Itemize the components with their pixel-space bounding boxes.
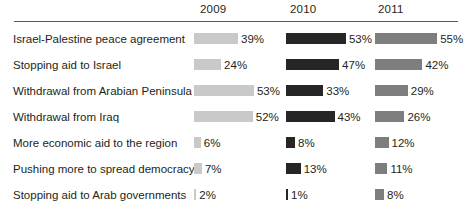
bar-value-label: 6% — [204, 130, 221, 156]
column-header-2011: 2011 — [378, 3, 404, 15]
bar-2009 — [194, 59, 221, 70]
bar-value-label: 24% — [224, 52, 247, 78]
bar-2010 — [286, 59, 339, 70]
bar-2011 — [375, 189, 384, 200]
column-header-2010: 2010 — [290, 3, 316, 15]
row-category-label: Pushing more to spread democracy — [13, 156, 195, 182]
bar-value-label: 39% — [241, 26, 264, 52]
bar-value-label: 8% — [387, 182, 404, 208]
bar-value-label: 1% — [291, 182, 308, 208]
row-category-label: More economic aid to the region — [13, 130, 177, 156]
row-category-label: Withdrawal from Iraq — [13, 104, 119, 130]
bar-2010 — [286, 189, 288, 200]
bar-2011 — [375, 59, 422, 70]
bar-2011 — [375, 137, 389, 148]
row-category-label: Stopping aid to Arab governments — [13, 182, 186, 208]
bar-value-label: 12% — [392, 130, 415, 156]
bar-value-label: 26% — [407, 104, 430, 130]
bar-2011 — [375, 111, 404, 122]
bar-2010 — [286, 163, 301, 174]
row-category-label: Withdrawal from Arabian Peninsula — [13, 78, 192, 104]
bar-2009 — [194, 137, 201, 148]
bar-value-label: 53% — [257, 78, 280, 104]
header-divider-rule — [14, 21, 458, 22]
bar-2010 — [286, 137, 295, 148]
bar-2011 — [375, 33, 437, 44]
column-header-2009: 2009 — [200, 3, 226, 15]
bar-2009 — [194, 85, 254, 96]
bar-value-label: 53% — [349, 26, 372, 52]
chart-row: More economic aid to the region6%8%12% — [0, 130, 472, 156]
bar-value-label: 55% — [440, 26, 463, 52]
bar-value-label: 52% — [256, 104, 279, 130]
chart-row: Stopping aid to Arab governments2%1%8% — [0, 182, 472, 208]
bar-2009 — [194, 189, 196, 200]
bar-2010 — [286, 85, 323, 96]
row-category-label: Stopping aid to Israel — [13, 52, 121, 78]
bar-2010 — [286, 111, 335, 122]
chart-row: Israel-Palestine peace agreement39%53%55… — [0, 26, 472, 52]
chart-row: Withdrawal from Iraq52%43%26% — [0, 104, 472, 130]
bar-2011 — [375, 85, 408, 96]
bar-value-label: 8% — [298, 130, 315, 156]
bar-2011 — [375, 163, 387, 174]
bar-value-label: 7% — [205, 156, 222, 182]
bar-2009 — [194, 111, 253, 122]
bar-2009 — [194, 33, 238, 44]
chart-row: Pushing more to spread democracy7%13%11% — [0, 156, 472, 182]
row-category-label: Israel-Palestine peace agreement — [13, 26, 185, 52]
bar-value-label: 29% — [411, 78, 434, 104]
bar-value-label: 13% — [304, 156, 327, 182]
bar-value-label: 47% — [342, 52, 365, 78]
bar-value-label: 42% — [425, 52, 448, 78]
grouped-bar-chart: 2009 2010 2011 Israel-Palestine peace ag… — [0, 0, 472, 222]
chart-row: Withdrawal from Arabian Peninsula53%33%2… — [0, 78, 472, 104]
bar-2009 — [194, 163, 202, 174]
bar-value-label: 43% — [338, 104, 361, 130]
chart-row: Stopping aid to Israel24%47%42% — [0, 52, 472, 78]
bar-value-label: 33% — [326, 78, 349, 104]
bar-2010 — [286, 33, 346, 44]
bar-value-label: 11% — [390, 156, 412, 182]
bar-value-label: 2% — [199, 182, 216, 208]
